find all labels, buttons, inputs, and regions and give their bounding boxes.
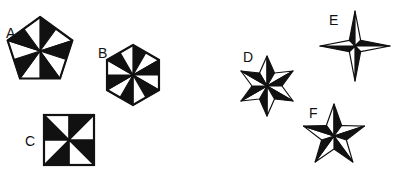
shape-d-six-point-star xyxy=(241,56,293,116)
label-b: B xyxy=(98,45,107,61)
shape-a-pentagon xyxy=(8,17,73,79)
label-a: A xyxy=(6,25,16,41)
label-d: D xyxy=(243,49,253,65)
label-c: C xyxy=(25,133,35,149)
shape-b-hexagon xyxy=(107,45,159,105)
shapes-figure: A B C D E F xyxy=(0,0,400,174)
label-f: F xyxy=(309,105,318,121)
shape-c-square xyxy=(44,115,94,165)
label-e: E xyxy=(329,12,338,28)
